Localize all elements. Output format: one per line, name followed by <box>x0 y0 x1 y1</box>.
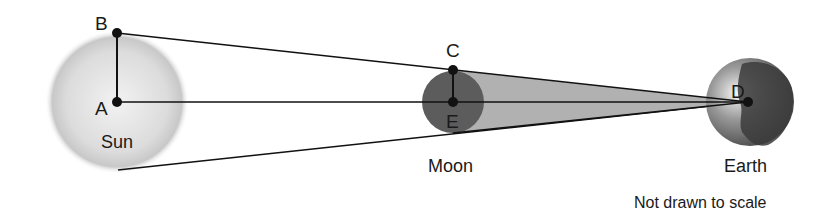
point-e-label: E <box>446 111 459 132</box>
point-b-label: B <box>95 13 108 34</box>
moon-label: Moon <box>428 156 473 176</box>
sun-moon-earth-diagram: B A C E D Sun Moon Earth Not drawn to sc… <box>0 0 837 215</box>
point-c-dot <box>448 65 458 75</box>
point-b-dot <box>112 28 122 38</box>
point-e-dot <box>448 97 458 107</box>
point-a-dot <box>112 97 122 107</box>
point-c-label: C <box>446 40 460 61</box>
point-d-label: D <box>731 81 745 102</box>
scale-note: Not drawn to scale <box>634 194 767 211</box>
point-a-label: A <box>95 98 108 119</box>
earth-label: Earth <box>724 156 767 176</box>
sun-label: Sun <box>101 132 133 152</box>
